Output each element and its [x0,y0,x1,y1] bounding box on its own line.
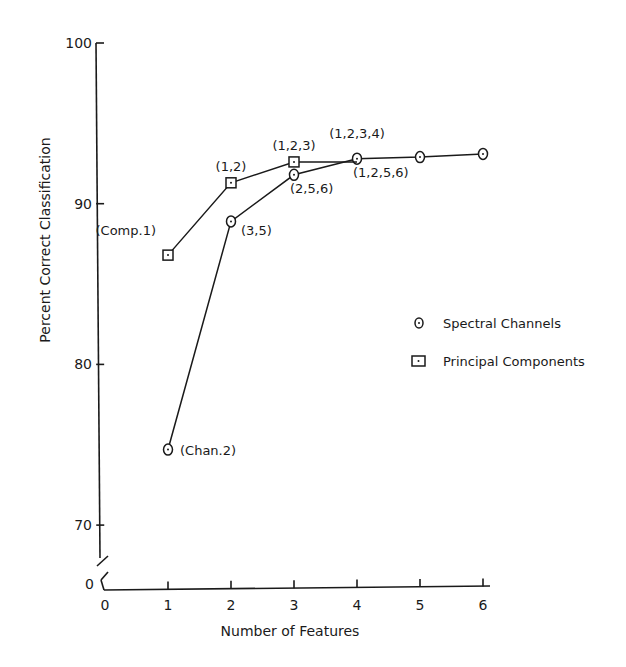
legend-item: Principal Components [412,354,585,369]
point-label: (1,2,3,4) [329,126,385,141]
legend: Spectral ChannelsPrincipal Components [412,316,585,369]
point-label: (Comp.1) [96,223,157,238]
y-axis-label: Percent Correct Classification [37,137,53,342]
marker-dot [167,254,169,256]
point-label: (Chan.2) [180,443,236,458]
x-tick-label: 2 [227,597,236,613]
marker-dot [230,220,232,222]
y-tick-label: 100 [65,35,92,51]
y-tick-label: 0 [85,576,94,592]
x-tick-label: 5 [416,597,425,613]
marker-dot [230,182,232,184]
principal-components-series: (Comp.1)(1,2)(1,2,3)(1,2,3,4) [96,126,385,260]
marker-dot [482,153,484,155]
axis-break-upper [97,556,108,566]
x-tick-label: 3 [290,597,299,613]
legend-item: Spectral Channels [415,316,561,331]
x-tick-label: 0 [101,597,110,613]
x-axis-label: Number of Features [221,623,360,639]
x-tick-label: 4 [353,597,362,613]
point-label: (1,2,3) [272,138,315,153]
x-axis [104,586,490,590]
point-label: (1,2) [216,159,247,174]
y-axis-lower [101,580,104,590]
legend-label: Spectral Channels [443,316,561,331]
marker-dot [167,449,169,451]
point-label: (3,5) [241,223,272,238]
marker-dot [293,174,295,176]
axes [96,43,490,590]
series-line [168,154,483,450]
y-tick-label: 90 [74,196,92,212]
axis-break-lower [101,572,108,580]
x-tick-label: 1 [164,597,173,613]
legend-label: Principal Components [443,354,585,369]
series: (Chan.2)(3,5)(2,5,6)(1,2,5,6)(Comp.1)(1,… [96,126,488,458]
y-axis [96,43,100,558]
marker-dot [419,156,421,158]
point-label: (1,2,5,6) [353,165,409,180]
marker-dot [418,322,420,324]
x-tick-label: 6 [479,597,488,613]
marker-dot [293,161,295,163]
chart: 0708090100 0123456 (Chan.2)(3,5)(2,5,6)(… [0,0,626,667]
x-ticks: 0123456 [101,578,488,613]
point-label: (2,5,6) [290,181,333,196]
spectral-channels-series: (Chan.2)(3,5)(2,5,6)(1,2,5,6) [164,148,488,457]
marker-dot [418,360,420,362]
series-line [168,162,357,255]
y-tick-label: 80 [74,356,92,372]
marker-dot [356,158,358,160]
y-tick-label: 70 [74,517,92,533]
